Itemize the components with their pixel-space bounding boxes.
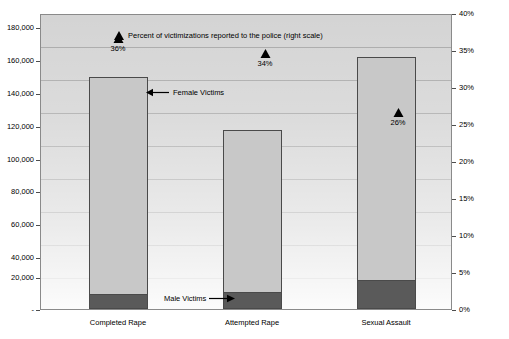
- bar-group-attempted-rape[interactable]: [223, 130, 282, 309]
- triangle-icon: [113, 34, 123, 43]
- triangle-icon: [393, 108, 403, 117]
- plot-area: [40, 14, 452, 310]
- annotation-female-victims-label: Female Victims: [173, 88, 224, 97]
- y-axis-left: 180,000 160,000 140,000 120,000 100,000 …: [0, 14, 40, 310]
- y-tick-label-left: 60,000: [0, 221, 34, 229]
- marker-value-label: 34%: [257, 59, 272, 68]
- marker-value-label: 26%: [390, 118, 405, 127]
- arrow-right-icon: [209, 294, 235, 303]
- chart-container: 180,000 160,000 140,000 120,000 100,000 …: [0, 0, 509, 339]
- y-tick-label-right: 40%: [459, 10, 499, 18]
- marker-value-label: 36%: [110, 44, 125, 53]
- bar-segment-female[interactable]: [223, 130, 282, 293]
- y-tick-label-left: 40,000: [0, 254, 34, 262]
- category-label-sexual-assault: Sexual Assault: [361, 318, 410, 327]
- marker-sexual-assault: 26%: [390, 108, 405, 127]
- y-tick-label-left: 140,000: [0, 90, 34, 98]
- gridline: [41, 47, 451, 48]
- annotation-male-victims-label: Male Victims: [164, 294, 206, 303]
- bar-segment-female[interactable]: [89, 77, 148, 295]
- arrow-left-icon: [146, 88, 170, 97]
- legend-note-label: Percent of victimizations reported to th…: [128, 31, 323, 40]
- bar-group-sexual-assault[interactable]: [357, 57, 416, 309]
- triangle-icon: [260, 49, 270, 58]
- annotation-male-victims: Male Victims: [164, 294, 235, 303]
- y-tick-label-left: -: [0, 306, 34, 314]
- y-tick-label-left: 180,000: [0, 24, 34, 32]
- y-tick-label-right: 15%: [459, 195, 499, 203]
- marker-completed-rape: 36%: [110, 34, 125, 53]
- y-tick-label-right: 25%: [459, 121, 499, 129]
- y-tick-label-right: 0%: [459, 306, 499, 314]
- bar-segment-female[interactable]: [357, 57, 416, 281]
- y-tick-label-left: 160,000: [0, 57, 34, 65]
- marker-attempted-rape: 34%: [257, 49, 272, 68]
- y-axis-right: 40% 35% 30% 25% 20% 15% 10% 5% 0%: [452, 14, 509, 310]
- y-tick-label-right: 30%: [459, 84, 499, 92]
- y-tick-label-right: 20%: [459, 158, 499, 166]
- bar-group-completed-rape[interactable]: [89, 77, 148, 309]
- y-tick-label-left: 120,000: [0, 123, 34, 131]
- y-tick-label-left: 100,000: [0, 156, 34, 164]
- y-tick-label-left: 20,000: [0, 274, 34, 282]
- y-tick-label-right: 10%: [459, 232, 499, 240]
- category-label-completed-rape: Completed Rape: [90, 318, 146, 327]
- bar-segment-male[interactable]: [89, 294, 148, 309]
- category-label-attempted-rape: Attempted Rape: [225, 318, 279, 327]
- y-tick-label-right: 35%: [459, 47, 499, 55]
- bar-segment-male[interactable]: [357, 280, 416, 309]
- y-tick-label-right: 5%: [459, 269, 499, 277]
- y-tick-label-left: 80,000: [0, 188, 34, 196]
- annotation-female-victims: Female Victims: [146, 88, 224, 97]
